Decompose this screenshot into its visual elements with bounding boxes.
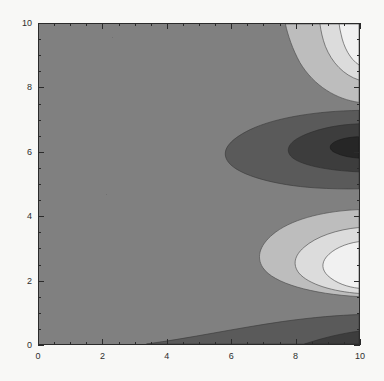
- x-axis-tick-top: [280, 23, 281, 26]
- y-axis-tick: [38, 329, 41, 330]
- y-axis-tick: [38, 248, 41, 249]
- y-axis-tick: [38, 184, 41, 185]
- y-axis-tick-label: 6: [14, 147, 32, 156]
- image-speck: [106, 194, 107, 195]
- y-axis-tick-right: [354, 87, 360, 88]
- y-axis-tick-right: [357, 55, 360, 56]
- image-speck: [112, 37, 113, 38]
- x-axis-tick: [135, 342, 136, 345]
- y-axis-tick-label: 8: [14, 83, 32, 92]
- y-axis-tick: [38, 71, 41, 72]
- x-axis-tick: [167, 339, 168, 345]
- x-axis-tick: [280, 342, 281, 345]
- x-axis-tick: [70, 342, 71, 345]
- y-axis-tick: [38, 265, 41, 266]
- x-axis-tick-top: [247, 23, 248, 26]
- y-axis-tick: [38, 297, 41, 298]
- y-axis-tick: [38, 136, 41, 137]
- y-axis-tick-right: [357, 200, 360, 201]
- y-axis-tick-right: [357, 297, 360, 298]
- x-axis-tick-top: [70, 23, 71, 26]
- x-axis-tick: [86, 342, 87, 345]
- x-axis-tick: [263, 342, 264, 345]
- y-axis-tick-right: [357, 232, 360, 233]
- y-axis-tick-right: [354, 152, 360, 153]
- y-axis-tick: [38, 23, 44, 24]
- y-axis-tick-right: [357, 313, 360, 314]
- y-axis-tick: [38, 200, 41, 201]
- x-axis-tick-top: [199, 23, 200, 26]
- x-axis-tick: [199, 342, 200, 345]
- y-axis-tick-label: 10: [14, 19, 32, 28]
- x-axis-tick-label: 4: [164, 352, 169, 361]
- x-axis-tick-label: 6: [229, 352, 234, 361]
- contour-plot-figure: 0246810 0246810: [0, 0, 384, 381]
- x-axis-tick-top: [102, 23, 103, 29]
- contour-field: [39, 24, 359, 344]
- x-axis-tick-top: [119, 23, 120, 26]
- x-axis-tick-label: 2: [100, 352, 105, 361]
- y-axis-tick: [38, 120, 41, 121]
- y-axis-tick-right: [357, 136, 360, 137]
- y-axis-tick: [38, 168, 41, 169]
- x-axis-tick-top: [344, 23, 345, 26]
- x-axis-tick: [151, 342, 152, 345]
- y-axis-tick-label: 2: [14, 276, 32, 285]
- x-axis-tick: [360, 339, 361, 345]
- x-axis-tick-top: [183, 23, 184, 26]
- x-axis-tick-top: [231, 23, 232, 29]
- y-axis-tick: [38, 281, 44, 282]
- x-axis-tick-top: [215, 23, 216, 26]
- y-axis-tick-right: [357, 329, 360, 330]
- y-axis-tick-right: [357, 71, 360, 72]
- y-axis-tick-label: 4: [14, 212, 32, 221]
- y-axis-tick: [38, 39, 41, 40]
- y-axis-tick-right: [354, 23, 360, 24]
- y-axis-tick: [38, 55, 41, 56]
- y-axis-tick: [38, 313, 41, 314]
- x-axis-tick-top: [296, 23, 297, 29]
- x-axis-tick-top: [167, 23, 168, 29]
- y-axis-tick-right: [354, 345, 360, 346]
- x-axis-tick: [102, 339, 103, 345]
- y-axis-tick: [38, 152, 44, 153]
- y-axis-tick-right: [357, 39, 360, 40]
- x-axis-tick-label: 10: [355, 352, 365, 361]
- y-axis-tick-right: [357, 248, 360, 249]
- x-axis-tick-top: [312, 23, 313, 26]
- y-axis-tick: [38, 87, 44, 88]
- plot-frame: [38, 23, 360, 345]
- y-axis-tick-right: [357, 184, 360, 185]
- x-axis-tick-top: [151, 23, 152, 26]
- y-axis-tick-right: [354, 216, 360, 217]
- y-axis-tick-right: [357, 104, 360, 105]
- x-axis-tick: [312, 342, 313, 345]
- x-axis-tick-label: 0: [35, 352, 40, 361]
- y-axis-tick-right: [357, 168, 360, 169]
- x-axis-tick-top: [54, 23, 55, 26]
- x-axis-tick-top: [328, 23, 329, 26]
- y-axis-tick-label: 0: [14, 341, 32, 350]
- x-axis-tick-label: 8: [293, 352, 298, 361]
- y-axis-tick-right: [357, 120, 360, 121]
- x-axis-tick: [344, 342, 345, 345]
- x-axis-tick: [119, 342, 120, 345]
- y-axis-tick: [38, 104, 41, 105]
- x-axis-tick: [183, 342, 184, 345]
- x-axis-tick: [328, 342, 329, 345]
- x-axis-tick-top: [263, 23, 264, 26]
- y-axis-tick: [38, 232, 41, 233]
- x-axis-tick: [296, 339, 297, 345]
- x-axis-tick: [247, 342, 248, 345]
- y-axis-tick-right: [357, 265, 360, 266]
- x-axis-tick-top: [135, 23, 136, 26]
- x-axis-tick: [54, 342, 55, 345]
- x-axis-tick: [215, 342, 216, 345]
- x-axis-tick: [231, 339, 232, 345]
- y-axis-tick-right: [354, 281, 360, 282]
- y-axis-tick: [38, 216, 44, 217]
- x-axis-tick-top: [86, 23, 87, 26]
- y-axis-tick: [38, 345, 44, 346]
- x-axis-tick-top: [360, 23, 361, 29]
